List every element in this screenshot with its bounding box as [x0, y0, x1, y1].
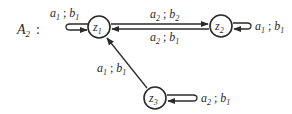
edge-z1-z1: [66, 24, 88, 30]
edge-z2-z2: [233, 23, 251, 29]
state-z2: z2: [210, 15, 232, 37]
state-z1: z1: [88, 16, 110, 38]
edge-label-z1-z1: a1 ; b1: [50, 6, 79, 22]
edge-label-z3-z1: a1 ; b1: [97, 61, 126, 77]
state-z3: z3: [144, 87, 166, 109]
automaton-label: A2:: [16, 22, 40, 39]
edge-label-z3-z3: a2 ; b1: [201, 91, 230, 107]
edge-label-z2-z1: a2 ; b1: [150, 30, 179, 46]
edge-label-z1-z2: a2 ; b2: [150, 7, 179, 23]
edge-label-z2-z2: a1 ; b1: [255, 19, 284, 35]
edge-z3-z3: [167, 95, 197, 101]
automaton-diagram: A2: a1 ; b1 a2 ; b2 a2 ; b1 a1 ; b1 a1 ;…: [0, 0, 292, 114]
